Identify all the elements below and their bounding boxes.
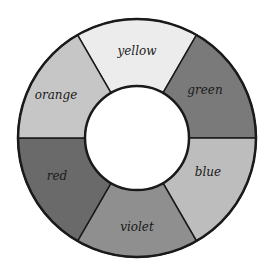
segment-label-green: green xyxy=(187,83,222,97)
segment-label-yellow: yellow xyxy=(116,44,157,58)
color-wheel: yellowgreenbluevioletredorange xyxy=(0,0,272,277)
segment-label-blue: blue xyxy=(195,165,221,179)
segment-label-violet: violet xyxy=(120,220,154,234)
segment-label-red: red xyxy=(47,169,68,183)
inner-hole xyxy=(85,86,189,190)
segment-label-orange: orange xyxy=(35,88,78,102)
